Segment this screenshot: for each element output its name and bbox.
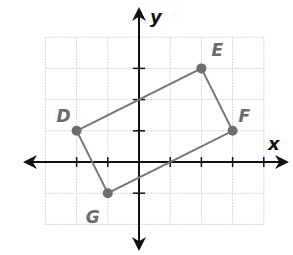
y-axis-label: y (150, 6, 163, 27)
point-D (72, 126, 82, 136)
point-F (228, 126, 238, 136)
point-E (196, 63, 206, 73)
point-G (103, 188, 113, 198)
coordinate-plane: x y DEFG (0, 0, 293, 255)
point-label-F: F (239, 106, 251, 126)
x-axis-label: x (267, 133, 281, 154)
point-label-E: E (211, 40, 223, 60)
point-label-D: D (57, 106, 71, 126)
point-label-G: G (86, 207, 100, 227)
